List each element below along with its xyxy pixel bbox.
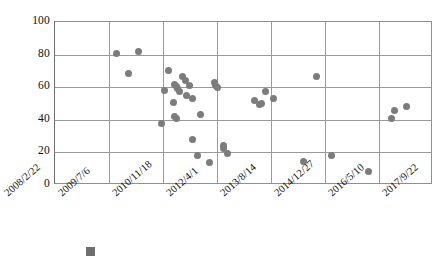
x-tick-label: 2017/9/22	[380, 161, 420, 198]
x-tick-label: 2010/11/18	[110, 158, 154, 198]
x-tick-label: 2013/8/14	[218, 161, 258, 198]
legend-swatch-icon	[86, 247, 95, 256]
x-tick-label: 2016/5/10	[326, 161, 366, 198]
x-tick-label: 2012/4/1	[164, 165, 200, 198]
x-tick-label: 2009/7/6	[56, 165, 92, 198]
legend	[86, 247, 99, 256]
x-tick-label: 2014/12/27	[272, 158, 316, 198]
x-tick-label: 2008/2/22	[2, 161, 42, 198]
